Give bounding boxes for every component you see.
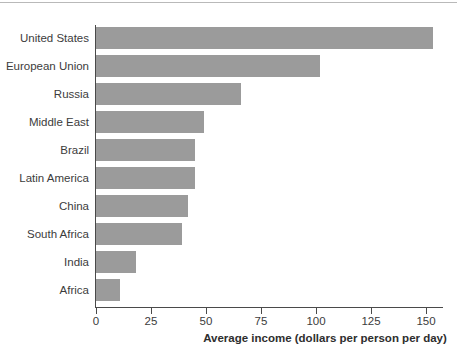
category-label-china: China bbox=[1, 195, 89, 217]
x-tick-label-75: 75 bbox=[241, 315, 281, 327]
bar-fill bbox=[96, 139, 195, 161]
x-tick-label-25: 25 bbox=[131, 315, 171, 327]
category-label-european-union: European Union bbox=[1, 55, 89, 77]
bar-fill bbox=[96, 251, 136, 273]
bar-russia bbox=[96, 83, 241, 105]
category-label-latin-america: Latin America bbox=[1, 167, 89, 189]
x-tick-mark-25 bbox=[151, 308, 152, 314]
category-label-brazil: Brazil bbox=[1, 139, 89, 161]
bar-latin-america bbox=[96, 167, 195, 189]
x-tick-label-50: 50 bbox=[186, 315, 226, 327]
category-label-middle-east: Middle East bbox=[1, 111, 89, 133]
x-tick-mark-100 bbox=[316, 308, 317, 314]
x-tick-label-150: 150 bbox=[406, 315, 446, 327]
bar-china bbox=[96, 195, 188, 217]
bar-european-union bbox=[96, 55, 320, 77]
bar-fill bbox=[96, 167, 195, 189]
x-tick-mark-0 bbox=[96, 308, 97, 314]
bar-fill bbox=[96, 223, 182, 245]
category-label-africa: Africa bbox=[1, 279, 89, 301]
bar-india bbox=[96, 251, 136, 273]
bar-fill bbox=[96, 27, 433, 49]
bar-fill bbox=[96, 111, 204, 133]
x-tick-label-0: 0 bbox=[76, 315, 116, 327]
category-label-south-africa: South Africa bbox=[1, 223, 89, 245]
bar-united-states bbox=[96, 27, 433, 49]
x-tick-mark-125 bbox=[371, 308, 372, 314]
bar-brazil bbox=[96, 139, 195, 161]
bar-fill bbox=[96, 195, 188, 217]
x-axis-line bbox=[95, 307, 443, 308]
bar-fill bbox=[96, 83, 241, 105]
bar-fill bbox=[96, 55, 320, 77]
bar-africa bbox=[96, 279, 120, 301]
category-label-russia: Russia bbox=[1, 83, 89, 105]
x-tick-mark-50 bbox=[206, 308, 207, 314]
x-tick-label-125: 125 bbox=[351, 315, 391, 327]
bar-fill bbox=[96, 279, 120, 301]
bar-middle-east bbox=[96, 111, 204, 133]
category-label-united-states: United States bbox=[1, 27, 89, 49]
bar-south-africa bbox=[96, 223, 182, 245]
x-tick-mark-150 bbox=[426, 308, 427, 314]
category-label-india: India bbox=[1, 251, 89, 273]
bar-chart: United StatesEuropean UnionRussiaMiddle … bbox=[0, 0, 457, 352]
x-tick-label-100: 100 bbox=[296, 315, 336, 327]
x-axis-title: Average income (dollars per person per d… bbox=[196, 332, 454, 344]
x-tick-mark-75 bbox=[261, 308, 262, 314]
